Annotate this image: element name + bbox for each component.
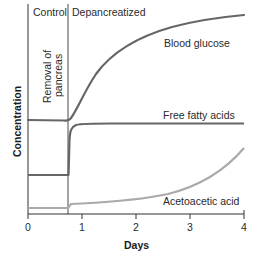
y-axis-title: Concentration <box>12 86 23 157</box>
x-tick-2: 2 <box>133 222 139 233</box>
label-acetoacetic-acid: Acetoacetic acid <box>163 196 239 207</box>
x-tick-3: 3 <box>187 222 193 233</box>
removal-annotation-line2: pancreas <box>53 50 64 103</box>
x-tick-4: 4 <box>241 222 247 233</box>
x-tick-0: 0 <box>25 222 31 233</box>
removal-annotation: Removal of pancreas <box>42 50 64 103</box>
label-free-fatty-acids: Free fatty acids <box>163 110 235 121</box>
series-free-fatty-acids <box>28 124 244 176</box>
phase-label-depancreatized: Depancreatized <box>72 7 146 18</box>
label-blood-glucose: Blood glucose <box>164 38 230 49</box>
x-tick-1: 1 <box>79 222 85 233</box>
phase-label-control: Control <box>33 7 67 18</box>
x-axis-title: Days <box>124 240 149 251</box>
